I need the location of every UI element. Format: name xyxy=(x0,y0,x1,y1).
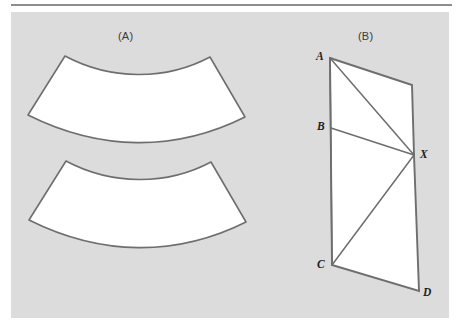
vertex-label-b: B xyxy=(317,120,325,132)
blade-upper-shape xyxy=(28,56,245,143)
vertex-label-d: D xyxy=(423,286,431,298)
panel-a-caption: (A) xyxy=(118,30,133,42)
blade-lower-shape xyxy=(29,161,246,248)
panel-b-caption: (B) xyxy=(358,30,373,42)
quadrilateral-outline xyxy=(330,58,419,291)
figure-root: (A) (B) A B C D X xyxy=(0,0,459,328)
vertex-label-c: C xyxy=(317,258,325,270)
figure-artwork xyxy=(0,0,459,328)
vertex-label-a: A xyxy=(316,50,324,62)
vertex-label-x: X xyxy=(420,148,428,160)
